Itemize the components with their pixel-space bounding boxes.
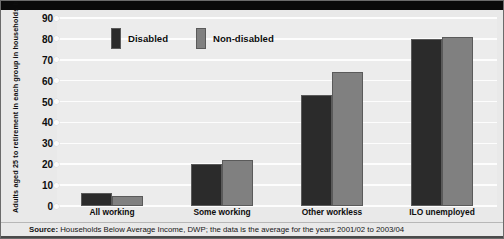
legend-swatch-disabled — [111, 28, 121, 49]
y-axis-tick-labels: 0102030405060708090 — [1, 18, 53, 206]
bottom-rule — [1, 236, 504, 238]
bar-group — [411, 18, 473, 206]
top-black-band — [1, 1, 504, 10]
y-axis-tick-label: 80 — [5, 33, 53, 44]
y-axis-tick-label: 30 — [5, 138, 53, 149]
bar-group — [301, 18, 363, 206]
source-text: Households Below Average Income, DWP; th… — [60, 225, 404, 234]
bar-non-disabled-some-working — [222, 160, 253, 206]
y-axis-tick-label: 70 — [5, 54, 53, 65]
legend-label-non-disabled: Non-disabled — [213, 33, 274, 44]
source-divider — [1, 222, 504, 223]
y-axis-tick-label: 10 — [5, 180, 53, 191]
bar-disabled-ilo-unemployed — [411, 39, 442, 206]
y-axis-tick-label: 20 — [5, 159, 53, 170]
source-note: Source: Households Below Average Income,… — [29, 225, 489, 234]
bar-non-disabled-all-working — [112, 196, 143, 206]
x-axis-tick-labels: All workingSome workingOther worklessILO… — [57, 207, 497, 221]
bar-non-disabled-ilo-unemployed — [442, 37, 473, 206]
legend-swatch-non-disabled — [196, 28, 206, 49]
x-axis-tick-label: All working — [57, 207, 167, 217]
bar-disabled-some-working — [191, 164, 222, 206]
legend-item-disabled: Disabled — [111, 28, 168, 49]
chart-figure: Adults aged 25 to retirement in each gro… — [0, 0, 504, 239]
x-axis-tick-label: Other workless — [277, 207, 387, 217]
y-axis-tick-label: 40 — [5, 117, 53, 128]
legend-label-disabled: Disabled — [128, 33, 168, 44]
bar-non-disabled-other-workless — [332, 72, 363, 206]
y-axis-tick-label: 50 — [5, 96, 53, 107]
bar-disabled-other-workless — [301, 95, 332, 206]
source-prefix: Source: — [29, 225, 58, 234]
legend-item-non-disabled: Non-disabled — [196, 28, 274, 49]
bar-disabled-all-working — [81, 193, 112, 206]
x-axis-tick-label: ILO unemployed — [387, 207, 497, 217]
y-axis-tick-label: 60 — [5, 75, 53, 86]
chart-legend: Disabled Non-disabled — [111, 27, 274, 49]
y-axis-tick-label: 90 — [5, 13, 53, 24]
x-axis-tick-label: Some working — [167, 207, 277, 217]
y-axis-tick-label: 0 — [5, 201, 53, 212]
